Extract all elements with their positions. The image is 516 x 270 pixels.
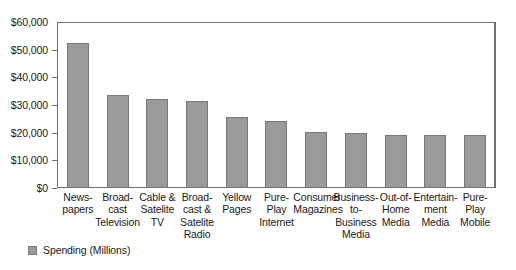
y-axis-tick-mark — [52, 188, 57, 189]
y-axis-tick-mark — [52, 50, 57, 51]
bar-spending[interactable] — [265, 121, 287, 188]
bar-slot — [98, 22, 138, 188]
bar-slot — [217, 22, 257, 188]
bar-spending[interactable] — [67, 43, 89, 188]
y-axis-tick-label: $20,000 — [11, 127, 48, 138]
y-axis-tick-label: $40,000 — [11, 72, 48, 83]
bars-layer — [58, 22, 495, 188]
bar-slot — [137, 22, 177, 188]
y-axis-tick-label: $50,000 — [11, 44, 48, 55]
bar-spending[interactable] — [226, 117, 248, 188]
bar-slot — [296, 22, 336, 188]
bar-spending[interactable] — [305, 132, 327, 188]
legend-swatch-spending — [28, 246, 37, 255]
bar-spending[interactable] — [385, 135, 407, 188]
bar-spending[interactable] — [107, 95, 129, 189]
bar-spending[interactable] — [186, 101, 208, 188]
y-axis-tick-label: $30,000 — [11, 100, 48, 111]
y-axis-tick-label: $0 — [37, 183, 48, 194]
bar-slot — [177, 22, 217, 188]
bar-spending[interactable] — [146, 99, 168, 188]
y-axis: $60,000$50,000$40,000$30,000$20,000$10,0… — [0, 0, 57, 210]
chart-legend: Spending (Millions) — [28, 245, 130, 256]
x-axis-category-label: Pure-PlayMobile — [452, 191, 498, 228]
bar-slot — [376, 22, 416, 188]
bar-slot — [58, 22, 98, 188]
bar-spending[interactable] — [424, 135, 446, 188]
bar-chart: $60,000$50,000$40,000$30,000$20,000$10,0… — [0, 0, 516, 270]
bar-slot — [336, 22, 376, 188]
bar-spending[interactable] — [345, 133, 367, 188]
bar-slot — [257, 22, 297, 188]
bar-spending[interactable] — [464, 135, 486, 188]
y-axis-tick-mark — [52, 77, 57, 78]
legend-label-spending: Spending (Millions) — [43, 245, 130, 256]
y-axis-tick-label: $10,000 — [11, 155, 48, 166]
y-axis-tick-mark — [52, 105, 57, 106]
y-axis-tick-mark — [52, 160, 57, 161]
y-axis-tick-label: $60,000 — [11, 17, 48, 28]
bar-slot — [416, 22, 456, 188]
y-axis-tick-mark — [52, 133, 57, 134]
bar-slot — [455, 22, 495, 188]
